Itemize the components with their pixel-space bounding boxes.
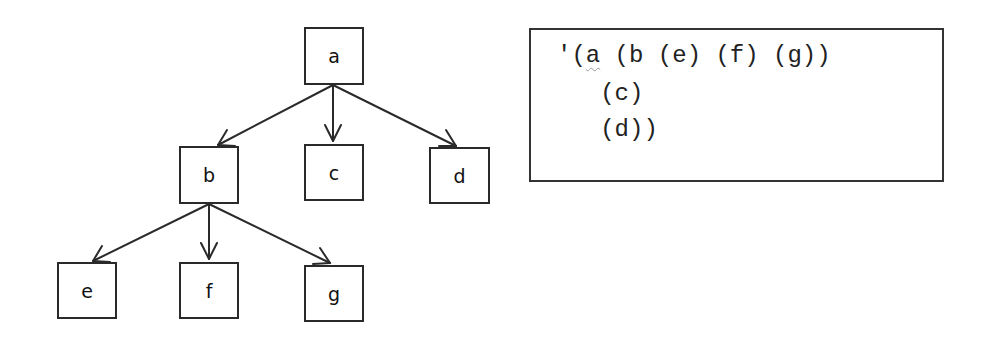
node-label: c — [329, 162, 339, 184]
tree-node-g: g — [304, 265, 364, 322]
arrow-a-d — [333, 85, 456, 146]
arrow-b-e — [93, 204, 209, 262]
node-label: g — [328, 283, 340, 305]
tree-node-c: c — [304, 144, 364, 201]
tree-node-f: f — [179, 262, 239, 319]
arrow-b-g — [209, 204, 330, 264]
node-label: b — [203, 164, 215, 186]
node-label: a — [328, 45, 340, 67]
arrow-b-f — [201, 204, 217, 259]
quote-prefix: '( — [557, 42, 586, 69]
code-line-1: '(a (b (e) (f) (g)) — [557, 42, 831, 70]
code-panel: '(a (b (e) (f) (g)) (c) (d)) — [529, 28, 944, 182]
code-line-2: (c) — [557, 80, 643, 108]
tree-node-d: d — [429, 147, 490, 204]
node-label: d — [453, 165, 465, 187]
root-symbol: a — [586, 42, 600, 69]
code-line-3: (d)) — [557, 116, 658, 144]
tree-node-b: b — [179, 146, 239, 204]
node-label: e — [81, 280, 93, 302]
code-line-1-rest: (b (e) (f) (g)) — [600, 42, 830, 69]
node-label: f — [206, 280, 213, 302]
arrow-a-b — [218, 85, 333, 146]
tree-node-e: e — [57, 262, 117, 319]
tree-node-a: a — [304, 27, 364, 85]
arrow-a-c — [325, 85, 341, 141]
